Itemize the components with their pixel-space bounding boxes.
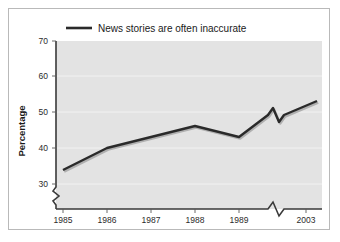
x-tick-label-1988: 1988 — [186, 215, 205, 225]
y-tick-label-70: 70 — [39, 36, 49, 46]
y-tick-label-60: 60 — [39, 71, 49, 81]
y-tick-label-30: 30 — [39, 179, 49, 189]
chart-figure: 70 60 50 40 30 Percentage 1985 1986 1987… — [8, 8, 330, 230]
x-tick-label-1989: 1989 — [230, 215, 249, 225]
legend-label: News stories are often inaccurate — [98, 23, 247, 34]
x-tick-label-1985: 1985 — [54, 215, 73, 225]
line-chart: 70 60 50 40 30 Percentage 1985 1986 1987… — [9, 9, 331, 231]
x-tick-label-2003: 2003 — [297, 215, 316, 225]
x-tick-label-1987: 1987 — [142, 215, 161, 225]
y-axis-title: Percentage — [16, 105, 27, 156]
x-tick-label-1986: 1986 — [98, 215, 117, 225]
y-tick-label-40: 40 — [39, 143, 49, 153]
y-tick-label-50: 50 — [39, 107, 49, 117]
